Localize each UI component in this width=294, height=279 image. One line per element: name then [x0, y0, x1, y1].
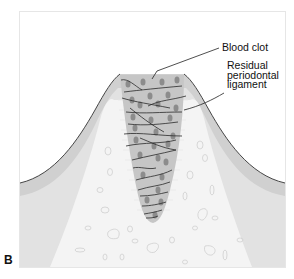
panel-letter: B — [4, 253, 13, 267]
residual-pdl-label-line-3: ligament — [227, 80, 279, 90]
extraction-socket-diagram: Blood clot Residual periodontal ligament… — [0, 0, 294, 279]
residual-pdl-label: Residual periodontal ligament — [227, 61, 279, 90]
blood-clot-label: Blood clot — [222, 42, 268, 52]
